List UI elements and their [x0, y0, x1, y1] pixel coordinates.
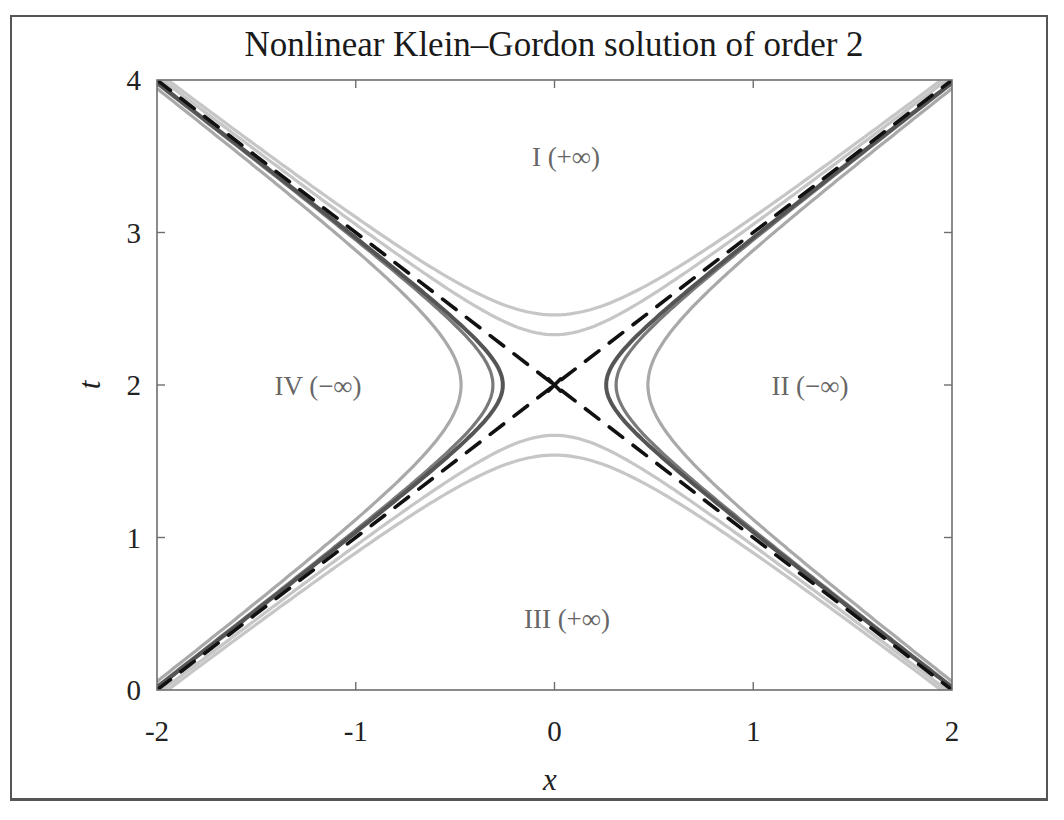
y-axis-label: t	[72, 379, 107, 389]
y-tick-label: 4	[127, 64, 142, 96]
x-tick-label: 1	[746, 715, 761, 747]
x-tick-label: 0	[547, 715, 562, 747]
x-axis-label: x	[542, 762, 557, 797]
x-tick-label: -1	[344, 715, 368, 747]
x-tick-label: -2	[145, 715, 169, 747]
region-label-IV: IV (−∞)	[274, 371, 361, 401]
region-label-III: III (+∞)	[524, 604, 610, 634]
x-tick-label: 2	[945, 715, 960, 747]
y-tick-label: 2	[127, 369, 142, 401]
y-tick-label: 0	[127, 674, 142, 706]
chart-title: Nonlinear Klein–Gordon solution of order…	[244, 25, 863, 64]
curve-t-inner	[117, 46, 988, 335]
region-label-I: I (+∞)	[532, 142, 600, 172]
region-label-II: II (−∞)	[771, 371, 848, 401]
curve-t-inner	[117, 435, 988, 724]
chart: Nonlinear Klein–Gordon solution of order…	[0, 0, 1064, 820]
y-tick-label: 3	[127, 217, 142, 249]
curve-t-outer	[117, 42, 988, 315]
y-tick-label: 1	[127, 522, 142, 554]
curve-t-outer	[117, 455, 988, 728]
